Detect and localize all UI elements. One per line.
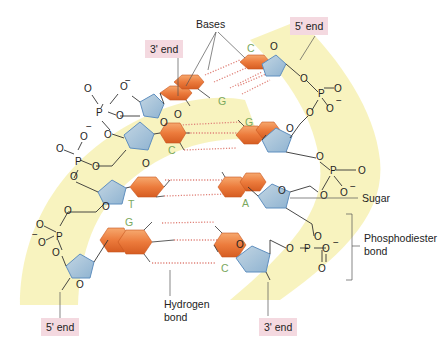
- svg-text:O: O: [270, 41, 278, 52]
- svg-text:O: O: [326, 103, 334, 114]
- svg-text:O: O: [316, 151, 324, 162]
- svg-text:O: O: [334, 83, 342, 94]
- svg-text:O: O: [92, 161, 100, 172]
- svg-text:O: O: [320, 190, 328, 201]
- base-letter-row2-left: C: [168, 144, 176, 156]
- svg-text:O: O: [306, 107, 314, 118]
- base-letter-row4-left: G: [125, 216, 133, 228]
- label-sugar: Sugar: [362, 192, 390, 204]
- svg-text:−: −: [86, 121, 92, 132]
- svg-text:P: P: [330, 165, 337, 176]
- base-letter-row4-right: C: [221, 262, 229, 274]
- svg-text:O: O: [76, 279, 84, 290]
- svg-text:−: −: [125, 75, 131, 86]
- end-label-bottom-right: 3' end: [259, 318, 297, 336]
- svg-text:O: O: [174, 109, 182, 120]
- svg-text:−: −: [350, 181, 356, 192]
- dna-diagram: P O O O − O O P O O O − O O O O P O O − …: [0, 0, 448, 337]
- label-phosphodiester-1: Phosphodiester: [364, 232, 437, 244]
- base-letter-row3-left: T: [128, 198, 134, 210]
- label-hydrogen-1: Hydrogen: [164, 298, 210, 310]
- svg-text:O: O: [236, 239, 244, 250]
- base-letter-top-right: C: [247, 42, 255, 54]
- label-phosphodiester-2: bond: [364, 245, 387, 257]
- svg-text:P: P: [304, 243, 311, 254]
- end-label-top-left: 3' end: [145, 40, 183, 58]
- svg-text:P: P: [56, 231, 63, 242]
- svg-text:O: O: [104, 129, 112, 140]
- svg-text:O: O: [322, 243, 330, 254]
- svg-text:P: P: [96, 107, 103, 118]
- dna-structure-art: P O O O − O O P O O O − O O O O P O O − …: [0, 0, 448, 337]
- base-letter-top-left: G: [218, 95, 226, 107]
- svg-text:O: O: [358, 165, 366, 176]
- svg-text:O: O: [52, 247, 60, 258]
- svg-text:O: O: [286, 243, 294, 254]
- svg-text:O: O: [318, 263, 326, 274]
- base-letter-row2-right: G: [245, 116, 253, 128]
- svg-text:O: O: [56, 143, 64, 154]
- svg-text:O: O: [160, 117, 168, 128]
- svg-text:P: P: [318, 88, 325, 99]
- svg-text:O: O: [64, 205, 72, 216]
- svg-text:O: O: [116, 110, 124, 121]
- end-label-bottom-left: 5' end: [41, 318, 79, 336]
- svg-text:O: O: [300, 73, 308, 84]
- svg-text:P: P: [75, 156, 82, 167]
- svg-text:O: O: [340, 187, 348, 198]
- label-bases: Bases: [196, 18, 225, 30]
- label-hydrogen-2: bond: [164, 311, 187, 323]
- svg-text:O: O: [278, 185, 286, 196]
- svg-text:O: O: [80, 131, 88, 142]
- base-letter-row3-right: A: [242, 197, 249, 209]
- end-label-top-right: 5' end: [290, 17, 328, 35]
- svg-text:O: O: [70, 171, 78, 182]
- svg-text:−: −: [336, 95, 342, 106]
- svg-text:O: O: [286, 123, 294, 134]
- svg-text:−: −: [333, 237, 339, 248]
- svg-text:O: O: [102, 201, 110, 212]
- svg-text:O: O: [38, 237, 46, 248]
- svg-text:O: O: [142, 158, 150, 169]
- svg-text:−: −: [32, 229, 38, 240]
- svg-text:O: O: [84, 83, 92, 94]
- svg-text:O: O: [314, 231, 322, 242]
